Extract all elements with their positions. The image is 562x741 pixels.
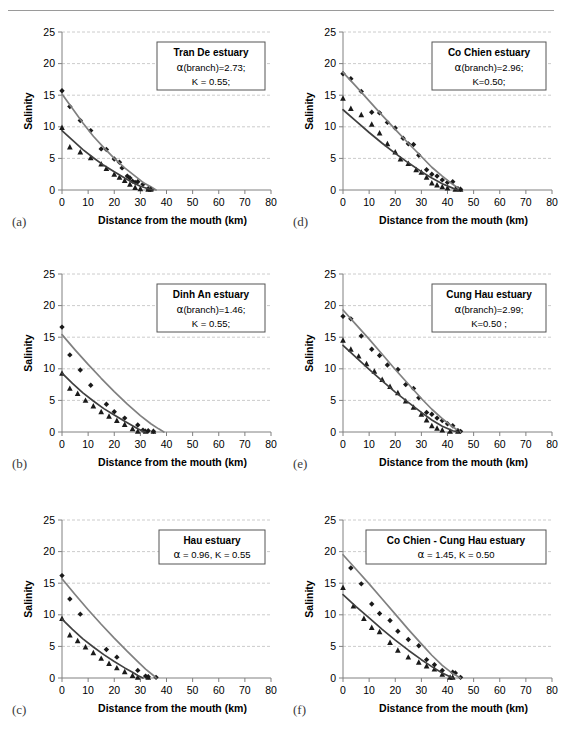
annotation-params-line2: K=0.50 ; (471, 318, 507, 329)
x-tick-label-20: 20 (108, 196, 120, 208)
series-curve-1 (62, 335, 164, 432)
x-tick-label-60: 60 (213, 684, 225, 696)
annotation-params-text: = 0.96, K = 0.55 (180, 549, 250, 560)
annotation-params-line1: α(branch)=2.99; (455, 303, 524, 315)
series-curve-3 (343, 110, 458, 190)
x-tick-label-80: 80 (546, 684, 558, 696)
chart-panel-c: 051015202501020304050607080Distance from… (0, 504, 281, 741)
x-tick-label-70: 70 (520, 438, 532, 450)
panel-letter: (a) (12, 214, 26, 230)
x-tick-label-40: 40 (161, 684, 173, 696)
x-tick-label-0: 0 (340, 196, 346, 208)
chart-svg: 051015202501020304050607080Distance from… (281, 504, 562, 741)
y-tick-label-0: 0 (330, 184, 336, 196)
marker-diamond (78, 367, 83, 372)
x-tick-label-60: 60 (494, 196, 506, 208)
marker-triangle (405, 654, 411, 659)
marker-triangle (429, 180, 435, 185)
annotation-params-line2: K=0.50; (472, 76, 505, 87)
x-tick-label-20: 20 (389, 684, 401, 696)
y-tick-label-15: 15 (324, 89, 336, 101)
y-tick-label-10: 10 (43, 120, 55, 132)
x-tick-label-40: 40 (442, 684, 454, 696)
x-tick-label-70: 70 (239, 196, 251, 208)
y-tick-label-25: 25 (43, 26, 55, 38)
marker-triangle (340, 585, 346, 590)
y-tick-label-5: 5 (49, 640, 55, 652)
annotation-params-line2: K = 0.55; (192, 76, 230, 87)
chart-panel-f: 051015202501020304050607080Distance from… (281, 504, 562, 741)
x-tick-label-0: 0 (340, 684, 346, 696)
marker-diamond (88, 383, 93, 388)
x-axis-title: Distance from the mouth (km) (379, 456, 528, 468)
marker-diamond (59, 573, 64, 578)
y-axis-title: Salinity (303, 92, 315, 130)
x-tick-label-30: 30 (416, 684, 428, 696)
marker-triangle (114, 665, 120, 670)
annotation-params-line1: α(branch)=1.46; (177, 303, 246, 315)
marker-triangle (361, 616, 367, 621)
x-tick-label-50: 50 (187, 438, 199, 450)
marker-diamond (359, 333, 364, 338)
x-tick-label-40: 40 (161, 438, 173, 450)
y-tick-label-5: 5 (330, 152, 336, 164)
marker-diamond (429, 412, 434, 417)
x-tick-label-30: 30 (416, 196, 428, 208)
annotation-params-line1: α(branch)=2.96; (455, 61, 524, 73)
annotation-title: Co Chien - Cung Hau estuary (387, 535, 526, 546)
marker-triangle (358, 112, 364, 117)
x-tick-label-80: 80 (265, 196, 277, 208)
x-tick-label-50: 50 (468, 438, 480, 450)
y-tick-label-0: 0 (49, 184, 55, 196)
marker-triangle (67, 144, 73, 149)
marker-triangle (434, 425, 440, 430)
y-tick-label-5: 5 (49, 394, 55, 406)
chart-svg: 051015202501020304050607080Distance from… (0, 258, 281, 504)
panel-letter: (b) (12, 456, 27, 472)
x-tick-label-60: 60 (213, 438, 225, 450)
figure-panel-grid: 051015202501020304050607080Distance from… (0, 16, 562, 741)
marker-triangle (369, 121, 375, 126)
x-tick-label-10: 10 (82, 684, 94, 696)
y-axis-title: Salinity (22, 580, 34, 618)
marker-diamond (78, 611, 83, 616)
annotation-params-line1: α = 0.96, K = 0.55 (173, 548, 250, 560)
y-tick-label-15: 15 (43, 89, 55, 101)
x-tick-label-50: 50 (468, 196, 480, 208)
y-axis-title: Salinity (22, 334, 34, 372)
y-tick-label-15: 15 (324, 331, 336, 343)
chart-svg: 051015202501020304050607080Distance from… (281, 16, 562, 258)
panel-letter: (f) (293, 702, 306, 718)
x-tick-label-20: 20 (108, 684, 120, 696)
x-tick-label-0: 0 (340, 438, 346, 450)
chart-svg: 051015202501020304050607080Distance from… (281, 258, 562, 504)
y-tick-label-10: 10 (324, 362, 336, 374)
annotation-title: Co Chien estuary (448, 47, 531, 58)
marker-triangle (377, 130, 383, 135)
marker-diamond (369, 347, 374, 352)
marker-diamond (340, 314, 345, 319)
y-tick-label-0: 0 (49, 426, 55, 438)
marker-diamond (406, 637, 411, 642)
annotation-title: Hau estuary (183, 535, 241, 546)
panel-letter: (c) (12, 702, 26, 718)
marker-diamond (135, 668, 140, 673)
marker-triangle (348, 105, 354, 110)
marker-diamond (67, 596, 72, 601)
x-tick-label-30: 30 (135, 196, 147, 208)
marker-triangle (387, 640, 393, 645)
x-tick-label-70: 70 (239, 438, 251, 450)
marker-diamond (114, 654, 119, 659)
marker-triangle (91, 403, 97, 408)
x-tick-label-20: 20 (389, 438, 401, 450)
annotation-params-text: (branch)=1.46; (183, 304, 245, 315)
y-axis-title: Salinity (303, 580, 315, 618)
marker-triangle (340, 95, 346, 100)
marker-triangle (67, 632, 73, 637)
y-tick-label-5: 5 (49, 152, 55, 164)
y-tick-label-10: 10 (324, 608, 336, 620)
x-tick-label-0: 0 (59, 196, 65, 208)
x-tick-label-30: 30 (135, 438, 147, 450)
x-tick-label-0: 0 (59, 438, 65, 450)
marker-diamond (67, 352, 72, 357)
